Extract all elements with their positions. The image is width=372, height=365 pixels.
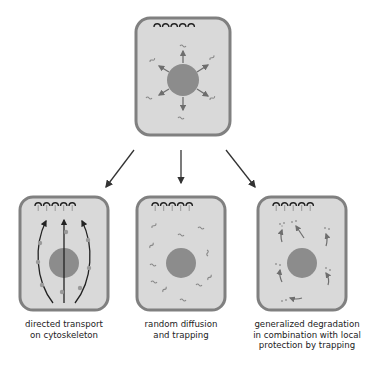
nucleus <box>167 64 199 96</box>
top-cell <box>136 18 230 135</box>
cell-random-diffusion <box>137 197 225 310</box>
nucleus <box>166 248 196 278</box>
nucleus <box>287 248 317 278</box>
label-random-diffusion: random diffusion and trapping <box>121 319 241 340</box>
label-degradation-protection: generalized degradation in combination w… <box>242 319 372 351</box>
label-directed-transport: directed transport on cytoskeleton <box>0 319 128 340</box>
cell-directed-transport <box>20 197 108 310</box>
diagram-canvas <box>0 0 372 365</box>
branch-arrows <box>106 150 255 187</box>
cell-degradation-protection <box>258 197 346 310</box>
